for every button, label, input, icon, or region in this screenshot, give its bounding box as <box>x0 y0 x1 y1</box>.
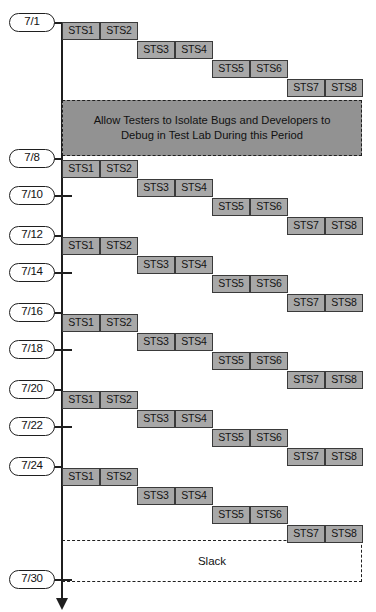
task-box-cycle-3-sts4: STS4 <box>175 256 213 274</box>
date-marker-7-1: 7/1 <box>9 13 55 32</box>
date-marker-7-20: 7/20 <box>9 380 55 399</box>
date-marker-7-30: 7/30 <box>9 570 55 589</box>
task-box-cycle-6-sts4: STS4 <box>175 487 213 505</box>
callout-block: Allow Testers to Isolate Bugs and Develo… <box>62 100 362 156</box>
task-box-cycle-3-sts7: STS7 <box>287 294 325 312</box>
task-box-cycle-6-sts5: STS5 <box>212 506 250 524</box>
task-box-cycle-2-sts1: STS1 <box>62 160 100 178</box>
slack-label: Slack <box>62 554 362 568</box>
task-box-cycle-3-sts6: STS6 <box>250 275 288 293</box>
date-marker-7-8: 7/8 <box>9 149 55 168</box>
task-box-cycle-4-sts4: STS4 <box>175 333 213 351</box>
task-box-cycle-5-sts8: STS8 <box>325 448 363 466</box>
task-box-cycle-5-sts2: STS2 <box>100 391 138 409</box>
task-box-cycle-6-sts8: STS8 <box>325 525 363 543</box>
task-box-cycle-3-sts8: STS8 <box>325 294 363 312</box>
task-box-cycle-5-sts6: STS6 <box>250 429 288 447</box>
date-marker-7-16: 7/16 <box>9 303 55 322</box>
task-box-cycle-3-sts1: STS1 <box>62 237 100 255</box>
date-tick-7-30 <box>53 579 72 581</box>
task-box-cycle-5-sts3: STS3 <box>137 410 175 428</box>
task-box-cycle-2-sts2: STS2 <box>100 160 138 178</box>
task-box-cycle-4-sts1: STS1 <box>62 314 100 332</box>
task-box-cycle-5-sts1: STS1 <box>62 391 100 409</box>
callout-line-2: Debug in Test Lab During this Period <box>94 128 331 144</box>
task-box-cycle-3-sts5: STS5 <box>212 275 250 293</box>
task-box-cycle-6-sts3: STS3 <box>137 487 175 505</box>
task-box-cycle-1-sts7: STS7 <box>287 79 325 97</box>
date-marker-7-14: 7/14 <box>9 263 55 282</box>
task-box-cycle-6-sts2: STS2 <box>100 468 138 486</box>
task-box-cycle-1-sts2: STS2 <box>100 22 138 40</box>
date-tick-7-14 <box>53 272 72 274</box>
task-box-cycle-2-sts5: STS5 <box>212 198 250 216</box>
timeline-diagram: 7/17/87/107/127/147/167/187/207/227/247/… <box>0 0 376 612</box>
task-box-cycle-6-sts7: STS7 <box>287 525 325 543</box>
task-box-cycle-1-sts4: STS4 <box>175 41 213 59</box>
task-box-cycle-4-sts5: STS5 <box>212 352 250 370</box>
task-box-cycle-2-sts6: STS6 <box>250 198 288 216</box>
task-box-cycle-1-sts1: STS1 <box>62 22 100 40</box>
task-box-cycle-2-sts3: STS3 <box>137 179 175 197</box>
task-box-cycle-1-sts8: STS8 <box>325 79 363 97</box>
time-axis-arrow-icon <box>56 598 68 610</box>
task-box-cycle-6-sts6: STS6 <box>250 506 288 524</box>
date-marker-7-18: 7/18 <box>9 340 55 359</box>
date-tick-7-22 <box>53 426 72 428</box>
task-box-cycle-5-sts7: STS7 <box>287 448 325 466</box>
date-tick-7-10 <box>53 195 72 197</box>
task-box-cycle-3-sts2: STS2 <box>100 237 138 255</box>
date-marker-7-12: 7/12 <box>9 226 55 245</box>
task-box-cycle-1-sts6: STS6 <box>250 60 288 78</box>
task-box-cycle-4-sts2: STS2 <box>100 314 138 332</box>
task-box-cycle-4-sts8: STS8 <box>325 371 363 389</box>
task-box-cycle-1-sts3: STS3 <box>137 41 175 59</box>
date-marker-7-10: 7/10 <box>9 186 55 205</box>
callout-line-1: Allow Testers to Isolate Bugs and Develo… <box>94 113 331 129</box>
task-box-cycle-4-sts3: STS3 <box>137 333 175 351</box>
date-marker-7-24: 7/24 <box>9 457 55 476</box>
task-box-cycle-2-sts7: STS7 <box>287 217 325 235</box>
task-box-cycle-4-sts7: STS7 <box>287 371 325 389</box>
task-box-cycle-6-sts1: STS1 <box>62 468 100 486</box>
task-box-cycle-2-sts4: STS4 <box>175 179 213 197</box>
task-box-cycle-3-sts3: STS3 <box>137 256 175 274</box>
date-tick-7-18 <box>53 349 72 351</box>
task-box-cycle-1-sts5: STS5 <box>212 60 250 78</box>
date-marker-7-22: 7/22 <box>9 417 55 436</box>
task-box-cycle-5-sts4: STS4 <box>175 410 213 428</box>
task-box-cycle-4-sts6: STS6 <box>250 352 288 370</box>
task-box-cycle-2-sts8: STS8 <box>325 217 363 235</box>
task-box-cycle-5-sts5: STS5 <box>212 429 250 447</box>
